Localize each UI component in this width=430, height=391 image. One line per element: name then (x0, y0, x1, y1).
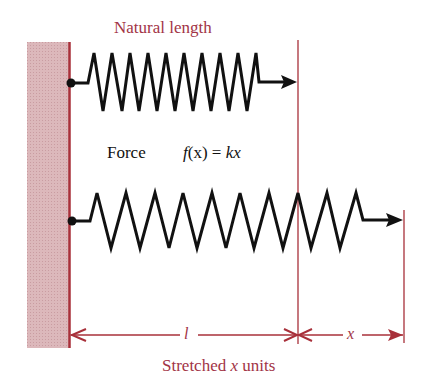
natural-spring (67, 53, 298, 111)
stretch-symbol: x (345, 325, 356, 343)
force-label: Force (107, 143, 146, 163)
diagram-canvas (0, 0, 430, 391)
caption-suffix: units (238, 356, 275, 375)
hookes-law-diagram: Natural length Force f(x) = kx l x Stret… (0, 0, 430, 391)
stretched-caption: Stretched x units (162, 356, 275, 376)
formula-eq: = (208, 143, 226, 162)
spring-coil (72, 193, 390, 248)
natural-length-label: Natural length (114, 18, 212, 38)
formula-rhs: kx (226, 143, 241, 162)
caption-prefix: Stretched (162, 356, 230, 375)
natural-length-symbol: l (182, 325, 190, 343)
force-formula: f(x) = kx (183, 143, 241, 163)
wall (27, 42, 69, 348)
caption-var: x (230, 356, 238, 375)
spring-coil (71, 53, 285, 111)
stretched-spring (68, 193, 404, 248)
formula-arg: (x) (188, 143, 208, 162)
